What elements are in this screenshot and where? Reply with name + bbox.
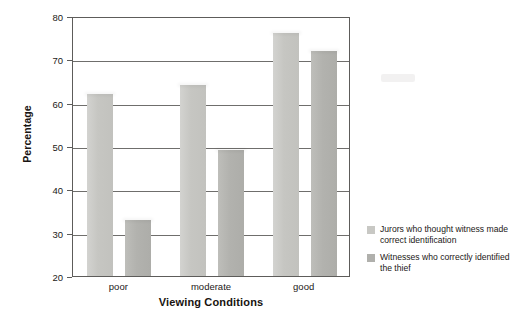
plot-area: [72, 17, 350, 277]
y-tick-label: 30: [39, 228, 63, 239]
bar: [180, 85, 206, 276]
y-axis-tick: 80: [0, 17, 72, 18]
bar: [218, 150, 244, 276]
y-tick-label: 80: [39, 12, 63, 23]
y-tick-label: 60: [39, 98, 63, 109]
legend-item: Jurors who thought witness made correct …: [367, 224, 517, 246]
y-tick-label: 40: [39, 185, 63, 196]
y-tick-label: 70: [39, 55, 63, 66]
x-tick-label: good: [293, 281, 314, 292]
y-tick-label: 20: [39, 272, 63, 283]
legend-swatch-icon: [367, 254, 375, 262]
bar: [311, 51, 337, 276]
x-axis-title: Viewing Conditions: [72, 296, 350, 308]
legend-item-label: Jurors who thought witness made correct …: [380, 224, 512, 246]
legend-swatch-icon: [367, 226, 375, 234]
bar: [273, 33, 299, 276]
y-tick-mark: [67, 277, 72, 278]
bar-chart: Percentage 20304050607080 poormoderatego…: [0, 0, 520, 317]
bar: [87, 94, 113, 276]
bars-layer: [73, 18, 349, 276]
y-axis-tick: 60: [0, 104, 72, 105]
bar: [125, 220, 151, 276]
x-axis-tick-labels: poormoderategood: [72, 281, 350, 297]
y-axis-ticks: 20304050607080: [0, 17, 72, 277]
legend-item: Witnesses who correctly identified the t…: [367, 252, 517, 274]
y-tick-label: 50: [39, 142, 63, 153]
y-axis-tick: 70: [0, 60, 72, 61]
chart-legend: Jurors who thought witness made correct …: [367, 224, 517, 280]
y-axis-tick: 40: [0, 190, 72, 191]
scan-artifact: [381, 74, 415, 82]
y-axis-tick: 20: [0, 277, 72, 278]
legend-item-label: Witnesses who correctly identified the t…: [380, 252, 512, 274]
x-tick-label: moderate: [191, 281, 231, 292]
x-tick-label: poor: [109, 281, 128, 292]
y-axis-tick: 50: [0, 147, 72, 148]
y-axis-tick: 30: [0, 234, 72, 235]
